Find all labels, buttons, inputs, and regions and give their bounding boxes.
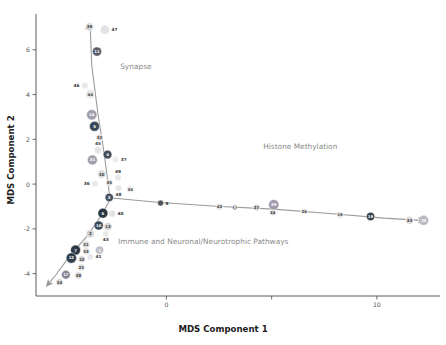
data-point: 48 [115,185,121,197]
data-point: 22 [78,255,85,262]
data-point: 33 [405,216,413,224]
node-label: 44 [88,92,94,97]
node-label: 47 [112,27,118,32]
node-label: 17 [63,272,69,277]
data-point: 29 [269,199,279,209]
data-point: 36 [84,180,98,186]
node-label: 30 [99,172,105,177]
data-point: 17 [61,270,70,279]
node-circle [92,180,98,186]
node-label: 12 [69,255,75,260]
node-label: 43 [103,237,109,242]
y-tick-label: -2 [24,225,30,232]
node-label: 3 [108,195,111,200]
data-point: 9 [158,200,169,206]
node-label: 35 [107,180,113,185]
data-point: 12 [66,253,76,263]
data-point: 45 [94,141,102,154]
x-tick-label: 10 [373,301,381,308]
node-circle [115,174,121,180]
y-axis-title: MDS Component 2 [6,115,16,204]
data-point: 33 [83,248,90,255]
node-label: 1 [98,248,101,253]
data-point: 40 [109,210,124,217]
data-point: 27 [253,204,260,211]
node-label: 31 [90,157,96,162]
data-point: 1 [95,246,103,254]
node-label: 6 [102,211,105,216]
node-label: 7 [74,248,77,253]
x-axis-title: MDS Component 1 [178,324,267,334]
node-label: 24 [57,280,63,285]
node-label: 21 [83,242,89,247]
data-point: 46 [73,82,88,89]
data-point: 42 [216,204,223,211]
node-label: 33 [83,249,89,254]
data-point: 4 [103,150,112,159]
node-label: 42 [217,204,223,209]
cluster-annotations: SynapseHistone MethylationImmune and Neu… [118,62,338,246]
node-circle [103,231,109,237]
data-point: 23 [78,264,85,271]
data-point: 16 [87,110,97,120]
y-tick-label: 4 [26,91,30,98]
node-label: 29 [271,202,277,207]
cluster-annotation: Immune and Neuronal/Neurotrophic Pathway… [118,237,288,246]
data-point: 10 [94,221,103,230]
node-label: 22 [79,257,85,262]
data-point: 14 [270,210,276,216]
y-tick-label: 6 [26,46,30,53]
data-point: 37 [112,156,127,163]
data-point: 6 [98,208,108,218]
node-label: 46 [73,83,79,88]
node-label: 36 [84,181,90,186]
node-circle [100,25,109,34]
node-markers: 3947114644165324543137303635494833496401… [56,23,429,286]
node-label: 45 [95,141,101,146]
node-label: 33 [407,218,413,223]
node-label: 9 [166,201,169,206]
node-label: 38 [76,273,82,278]
data-point: 25 [419,215,429,225]
data-point: 13 [104,222,112,230]
node-label: 2 [89,231,92,236]
cluster-annotation: Synapse [120,62,152,71]
node-label: 48 [115,192,121,197]
chart-canvas: 6420-2-4010 3947114644165324543137303635… [0,0,446,345]
data-point: 19 [366,212,374,220]
data-point: 15 [337,212,343,218]
y-tick-label: 0 [26,181,30,188]
x-tick-label: 0 [164,301,168,308]
node-label: 8 [233,205,236,210]
data-point: 31 [87,155,97,165]
data-point: 35 [106,179,113,186]
node-label: 15 [337,212,343,217]
node-label: 14 [270,210,276,215]
node-circle [81,82,88,89]
node-circle [87,254,93,260]
node-label: 27 [254,205,260,210]
node-label: 40 [118,211,124,216]
node-label: 11 [94,49,100,54]
data-point: 49 [115,169,121,180]
axes: 6420-2-4010 [24,14,440,308]
data-point: 32 [96,134,103,141]
data-point: 41 [87,254,101,260]
data-point: 38 [75,272,82,279]
node-label: 13 [105,224,111,229]
y-tick-label: 2 [26,136,30,143]
data-point: 34 [127,185,134,192]
node-label: 16 [89,112,95,117]
data-point: 3 [105,193,113,201]
node-label: 39 [87,24,93,29]
node-label: 34 [128,187,134,192]
node-circle [112,156,119,163]
node-circle [115,185,121,191]
node-label: 19 [368,214,374,219]
mds-scatter-plot: 6420-2-4010 3947114644165324543137303635… [0,0,446,345]
data-point: 44 [86,90,95,99]
node-label: 10 [96,223,102,228]
node-circle [109,210,116,217]
data-point: 5 [89,121,99,131]
node-label: 5 [93,124,96,129]
